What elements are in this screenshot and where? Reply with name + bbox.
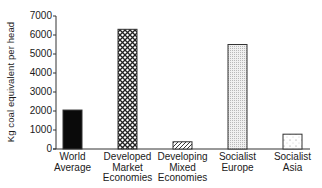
x-category-label: SocialistAsia	[258, 152, 322, 173]
category-label-line: Socialist	[258, 152, 322, 163]
category-label-line: Asia	[258, 163, 322, 174]
bar-world-average	[63, 110, 82, 149]
y-tick-label: 1000	[12, 125, 52, 135]
bar-socialist-europe	[228, 45, 247, 150]
bar-chart: Kg coal equivalent per head 0100020	[0, 0, 322, 188]
category-label-line: Economies	[148, 173, 218, 184]
bar-developing-mixed-economies	[173, 142, 192, 149]
axes	[53, 16, 310, 149]
y-tick-label: 6000	[12, 30, 52, 40]
y-tick-label: 5000	[12, 49, 52, 59]
y-tick-label: 2000	[12, 106, 52, 116]
bars	[63, 29, 302, 149]
y-tick-label: 7000	[12, 11, 52, 21]
bar-developed-market-economies	[118, 29, 137, 149]
y-tick-label: 4000	[12, 68, 52, 78]
bar-socialist-asia	[283, 134, 302, 149]
y-tick-label: 3000	[12, 87, 52, 97]
